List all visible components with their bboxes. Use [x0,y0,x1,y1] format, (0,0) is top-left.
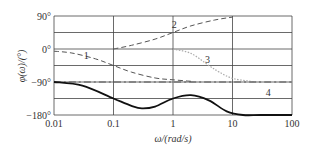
y-axis-label: φ(ω)/(°) [16,49,28,82]
y-tick-label: −180° [26,110,51,121]
y-tick-label: 90° [37,11,51,22]
curve-label-3: 3 [205,54,210,65]
curve-label-1: 1 [84,50,89,61]
curve-1 [54,51,191,81]
y-tick-label: −90° [31,77,51,88]
grid [54,16,292,115]
curve-label-4: 4 [266,87,271,98]
x-tick-label: 100 [285,118,300,129]
curve-label-2: 2 [172,19,177,30]
x-axis-label: ω/(rad/s) [154,133,192,145]
y-tick-label: 0° [42,44,51,55]
x-tick-label: 1 [171,118,176,129]
phase-chart: 0.010.111010090°0°−90°−180° 1234 ω/(rad/… [0,0,309,152]
x-tick-label: 0.1 [107,118,120,129]
tick-labels: 0.010.111010090°0°−90°−180° [26,11,299,130]
x-tick-label: 10 [228,118,238,129]
